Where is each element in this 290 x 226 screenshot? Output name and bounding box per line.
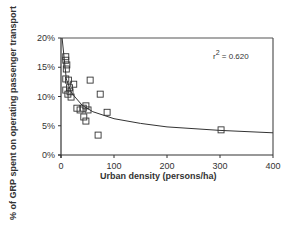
x-tick-label: 300 [212, 161, 227, 171]
y-tick-label: 10% [37, 92, 55, 102]
data-point [83, 118, 89, 124]
x-tick-label: 0 [58, 161, 63, 171]
y-tick-label: 20% [37, 33, 55, 43]
y-axis-label: % of GRP spent on operating passenger tr… [2, 18, 24, 208]
plot-area: 0%5%10%15%20%0100200300400r2 = 0.620 [0, 0, 290, 226]
x-tick-label: 100 [106, 161, 121, 171]
x-axis-label: Urban density (persons/ha) [100, 171, 217, 181]
x-tick-label: 400 [265, 161, 280, 171]
data-point [95, 132, 101, 138]
data-point [87, 77, 93, 83]
scatter-chart: 0%5%10%15%20%0100200300400r2 = 0.620 % o… [0, 0, 290, 226]
data-point [104, 109, 110, 115]
y-tick-label: 0% [42, 150, 55, 160]
data-point [81, 114, 87, 120]
data-point [97, 91, 103, 97]
y-tick-label: 5% [42, 121, 55, 131]
x-tick-label: 200 [159, 161, 174, 171]
y-tick-label: 15% [37, 62, 55, 72]
r-squared-annotation: r2 = 0.620 [213, 49, 249, 61]
y-axis-label-text: % of GRP spent on operating passenger tr… [8, 6, 18, 220]
data-point [63, 87, 69, 93]
